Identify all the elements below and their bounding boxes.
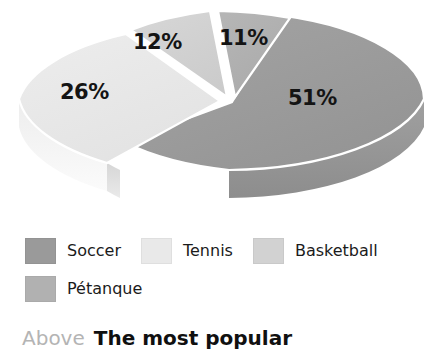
- caption-text: The most popular: [94, 326, 292, 350]
- pie-chart-graphic: 51% 26% 12% 11%: [0, 0, 439, 215]
- legend-swatch-basketball: [253, 238, 284, 264]
- slice-label-soccer: 51%: [288, 88, 337, 109]
- legend-label-petanque: Pétanque: [67, 281, 142, 297]
- legend-swatch-soccer: [25, 238, 56, 264]
- legend-item-soccer[interactable]: Soccer: [25, 238, 121, 264]
- slice-label-tennis: 26%: [60, 82, 109, 103]
- pie-chart-figure: 51% 26% 12% 11% Soccer Tennis Basketball: [0, 0, 439, 357]
- caption-above-label: Above: [22, 326, 85, 350]
- legend-row-1: Soccer Tennis Basketball: [0, 232, 439, 270]
- chart-legend: Soccer Tennis Basketball Pétanque: [0, 232, 439, 308]
- legend-row-2: Pétanque: [0, 270, 439, 308]
- legend-item-petanque[interactable]: Pétanque: [25, 276, 142, 302]
- figure-caption: AboveThe most popular: [22, 328, 439, 348]
- legend-swatch-petanque: [25, 276, 56, 302]
- legend-item-basketball[interactable]: Basketball: [253, 238, 378, 264]
- legend-label-soccer: Soccer: [67, 243, 121, 259]
- slice-label-basketball: 12%: [133, 32, 182, 53]
- slice-label-petanque: 11%: [219, 28, 268, 49]
- legend-label-basketball: Basketball: [295, 243, 378, 259]
- legend-item-tennis[interactable]: Tennis: [141, 238, 233, 264]
- legend-label-tennis: Tennis: [183, 243, 233, 259]
- slice-side-tennis-front: [107, 163, 120, 198]
- legend-swatch-tennis: [141, 238, 172, 264]
